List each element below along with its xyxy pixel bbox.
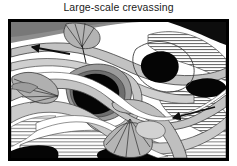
figure-container: Large-scale crevassing <box>0 0 237 166</box>
page-title: Large-scale crevassing <box>0 1 237 14</box>
crevasse-map-svg <box>8 19 229 161</box>
map-body <box>11 22 226 158</box>
crevasse-pattern-map <box>8 19 229 161</box>
